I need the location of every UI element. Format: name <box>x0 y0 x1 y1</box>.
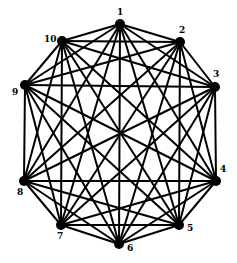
node-6 <box>114 239 124 249</box>
edge-2-5 <box>179 42 180 225</box>
edge-8-10 <box>24 41 62 181</box>
edge-8-9 <box>24 85 25 181</box>
node-2 <box>175 37 185 47</box>
edge-2-10 <box>62 41 180 42</box>
edge-2-4 <box>180 42 216 181</box>
node-3 <box>210 82 220 92</box>
node-7 <box>56 220 66 230</box>
node-label-5: 5 <box>187 223 193 233</box>
node-label-2: 2 <box>179 25 185 35</box>
edge-3-9 <box>25 85 215 87</box>
node-label-9: 9 <box>12 87 18 97</box>
edge-3-4 <box>215 87 216 181</box>
node-10 <box>57 36 67 46</box>
node-label-6: 6 <box>127 243 133 253</box>
node-4 <box>211 176 221 186</box>
node-label-3: 3 <box>213 69 219 79</box>
node-label-8: 8 <box>17 187 23 197</box>
node-8 <box>19 176 29 186</box>
node-9 <box>20 80 30 90</box>
edge-7-10 <box>61 41 62 225</box>
node-label-4: 4 <box>220 164 226 174</box>
complete-graph-k10: 12345678910 <box>0 0 237 263</box>
node-1 <box>115 19 125 29</box>
edge-4-10 <box>62 41 216 181</box>
node-label-1: 1 <box>117 7 123 17</box>
node-5 <box>174 220 184 230</box>
node-label-10: 10 <box>44 34 57 44</box>
node-label-7: 7 <box>57 231 63 241</box>
edges <box>24 24 216 244</box>
